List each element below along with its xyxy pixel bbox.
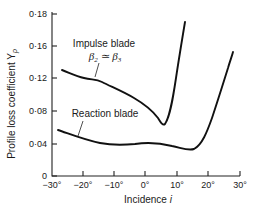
x-axis-title: Incidence i	[124, 194, 173, 205]
y-tick-0-12: 0·12	[29, 73, 47, 83]
x-tick-20: 20°	[201, 180, 215, 190]
impulse-blade-label: Impulse blade	[73, 38, 136, 49]
y-axis-title: Profile loss coefficient Yp	[6, 49, 19, 159]
axes	[52, 12, 240, 176]
reaction-blade-curve	[58, 52, 233, 150]
y-axis-tick-labels: 0 0·04 0·08 0·12 0·16 0·18	[29, 9, 47, 181]
y-axis-ticks	[52, 14, 57, 176]
beta-relation-label: β2 ≃ β3	[88, 50, 122, 64]
x-tick-minus-30: −30°	[43, 180, 62, 190]
x-axis-ticks	[83, 171, 240, 176]
x-tick-0: 0°	[141, 180, 150, 190]
x-tick-10: 10°	[170, 180, 184, 190]
impulse-leader-line	[95, 63, 99, 77]
loss-coefficient-chart: 0 0·04 0·08 0·12 0·16 0·18 −30° −20° −10…	[0, 0, 259, 212]
y-tick-0-04: 0·04	[29, 139, 47, 149]
x-tick-30: 30°	[233, 180, 247, 190]
reaction-blade-label: Reaction blade	[72, 108, 139, 119]
x-axis-tick-labels: −30° −20° −10° 0° 10° 20° 30°	[43, 180, 248, 190]
y-tick-0-18: 0·18	[29, 9, 47, 19]
y-tick-0-16: 0·16	[29, 41, 47, 51]
x-tick-minus-20: −20°	[74, 180, 93, 190]
x-tick-minus-10: −10°	[105, 180, 124, 190]
reaction-leader-line	[78, 121, 83, 136]
y-tick-0-08: 0·08	[29, 106, 47, 116]
